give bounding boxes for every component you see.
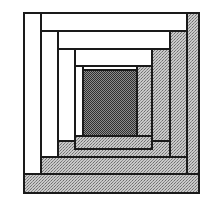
log-round3-top (41, 31, 170, 49)
log-round1-right (137, 66, 152, 141)
quilt-block-figure (0, 0, 215, 213)
log-round4-left (24, 13, 41, 174)
log-round1-bottom (75, 136, 152, 149)
log-round3-left (41, 31, 58, 157)
log-round4-bottom (24, 174, 199, 193)
log-round1-left (75, 66, 83, 141)
log-round4-top (24, 13, 187, 31)
log-round3-bottom (41, 157, 187, 174)
center-square (83, 70, 137, 136)
log-round4-right (187, 13, 199, 193)
log-round3-right (170, 31, 187, 174)
log-round2-left (58, 49, 75, 141)
log-cabin-block-drawing (0, 0, 215, 213)
